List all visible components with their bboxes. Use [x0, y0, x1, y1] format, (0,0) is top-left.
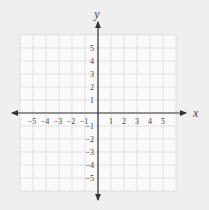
y-tick-label: −1: [85, 122, 94, 131]
y-axis-arrow-up-icon: [95, 21, 101, 28]
y-tick-label: −4: [85, 161, 94, 170]
x-tick-label: −2: [67, 117, 76, 126]
y-tick-label: 2: [90, 83, 94, 92]
x-tick-label: 3: [135, 117, 139, 126]
x-tick-label: 1: [109, 117, 113, 126]
y-tick-label: 4: [90, 57, 94, 66]
coordinate-plane: −5−4−3−2−11234554321−1−2−3−4−5 x y: [0, 0, 209, 210]
x-tick-label: 5: [161, 117, 165, 126]
x-tick-label: 2: [122, 117, 126, 126]
y-tick-label: 3: [90, 70, 94, 79]
x-tick-label: −4: [41, 117, 50, 126]
y-axis-arrow-down-icon: [95, 194, 101, 201]
y-tick-label: −2: [85, 135, 94, 144]
y-axis-label: y: [93, 7, 100, 21]
x-axis-arrow-left-icon: [11, 110, 18, 116]
y-tick-label: −5: [85, 174, 94, 183]
x-tick-label: −3: [54, 117, 63, 126]
y-tick-label: −3: [85, 148, 94, 157]
x-axis-label: x: [192, 106, 199, 120]
x-tick-label: −5: [28, 117, 37, 126]
x-tick-label: 4: [148, 117, 152, 126]
y-tick-label: 5: [90, 44, 94, 53]
y-tick-label: 1: [90, 96, 94, 105]
x-axis-arrow-right-icon: [180, 110, 187, 116]
